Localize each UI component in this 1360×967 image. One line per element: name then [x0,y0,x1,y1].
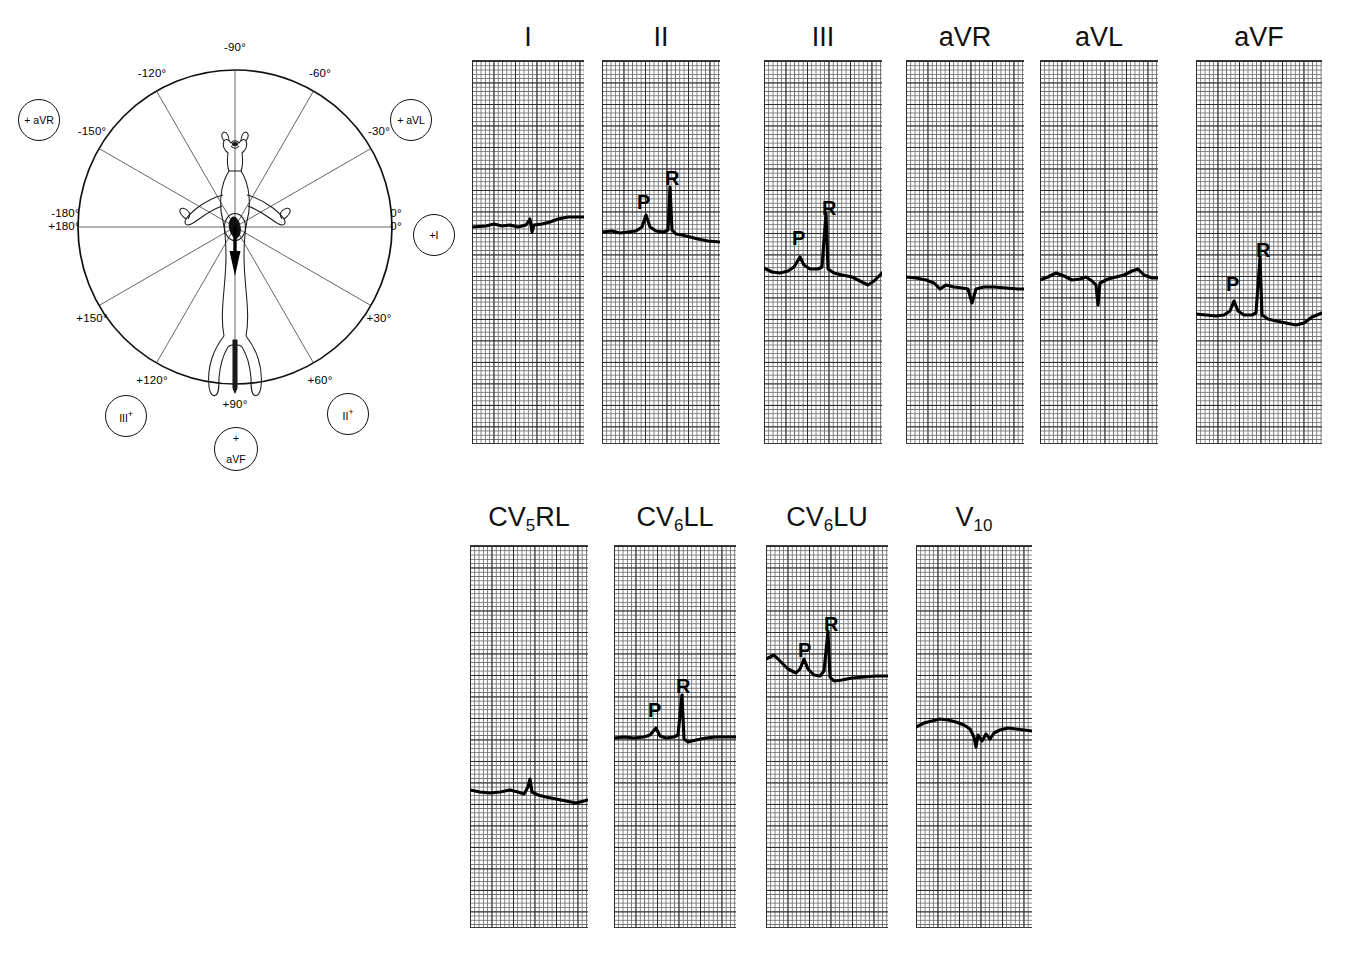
degree-label-minus60: -60° [309,67,331,79]
lead-label-CV6LU: CV6LU [766,502,888,533]
ecg-strip-II [602,60,720,444]
degree-label-120: +120° [136,374,168,386]
badge-avr-label: + aVR [24,114,53,126]
badge-avl: + aVL [390,99,432,141]
lead-label-subscript: 6 [674,516,683,535]
wave-annotation-P-CV6LL: P [648,700,661,720]
degree-label-minus180: -180° [48,207,80,220]
badge-iii-label: III+ [119,409,133,424]
ecg-strip-CV6LL [614,545,736,928]
ecg-graph-paper [614,546,736,927]
degree-label-minus150: -150° [78,125,107,137]
ecg-graph-paper [906,61,1024,443]
degree-label-minus90: -90° [224,41,246,53]
wave-annotation-P-III: P [792,228,805,248]
ecg-strip-I [472,60,584,444]
lead-label-text: CV6LU [786,502,868,532]
wave-annotation-P-CV6LU: P [798,640,811,660]
ecg-graph-paper [766,546,888,927]
wave-annotation-R-aVF: R [1256,240,1270,260]
ecg-strip-CV5RL [470,545,588,928]
degree-label-180: -180° +180° [48,207,80,233]
ecg-graph-paper [602,61,720,443]
degree-label-minus120: -120° [138,67,167,79]
lead-label-text: CV6LL [636,502,713,532]
lead-label-aVR: aVR [906,22,1024,53]
hexaxial-axis-panel: -90°-120°-60°-150°-30°+150°+30°+120°+60°… [0,0,460,490]
lead-label-subscript: 6 [824,516,833,535]
badge-avf-label: +aVF [226,433,245,465]
wave-annotation-R-CV6LL: R [676,676,690,696]
ecg-figure: -90°-120°-60°-150°-30°+150°+30°+120°+60°… [0,0,1360,967]
lead-label-subscript: 10 [974,516,993,535]
lead-label-subscript: 5 [526,516,535,535]
ecg-strip-CV6LU [766,545,888,928]
badge-i-label: +I [429,229,438,241]
badge-avf: +aVF [214,427,258,471]
degree-label-90: +90° [223,398,248,410]
badge-iii: III+ [105,395,147,437]
ecg-strip-V10 [916,545,1032,928]
wave-annotation-P-II: P [637,192,650,212]
lead-label-I: I [472,22,584,53]
lead-label-III: III [764,22,882,53]
degree-label-zero-top: 0° [390,207,401,220]
wave-annotation-R-CV6LU: R [824,614,838,634]
ecg-strip-III [764,60,882,444]
lead-label-V10: V10 [916,502,1032,533]
ecg-strip-aVL [1040,60,1158,444]
degree-label-minus30: -30° [368,125,390,137]
badge-i: +I [413,214,455,256]
badge-avr: + aVR [18,99,60,141]
degree-label-plus180: +180° [48,220,80,233]
badge-ii: II+ [327,393,369,435]
ecg-graph-paper [764,61,882,443]
degree-label-30: +30° [367,312,392,324]
ecg-graph-paper [916,546,1032,927]
degree-label-zero: 0° 0° [390,207,401,233]
lead-label-text: CV5RL [488,502,570,532]
ecg-strip-aVR [906,60,1024,444]
ecg-graph-paper [472,61,584,443]
ecg-graph-paper [470,546,588,927]
badge-ii-label: II+ [343,407,354,422]
degree-label-60: +60° [308,374,333,386]
lead-label-CV6LL: CV6LL [614,502,736,533]
hexaxial-circle-svg [0,0,460,490]
degree-label-zero-bottom: 0° [390,220,401,233]
lead-label-CV5RL: CV5RL [470,502,588,533]
lead-label-aVL: aVL [1040,22,1158,53]
lead-label-II: II [602,22,720,53]
wave-annotation-P-aVF: P [1226,274,1239,294]
degree-label-150: +150° [76,312,108,324]
wave-annotation-R-II: R [665,168,679,188]
badge-avl-label: + aVL [397,114,425,126]
wave-annotation-R-III: R [822,198,836,218]
lead-label-aVF: aVF [1196,22,1322,53]
lead-label-text: V10 [956,502,993,532]
ecg-graph-paper [1040,61,1158,443]
